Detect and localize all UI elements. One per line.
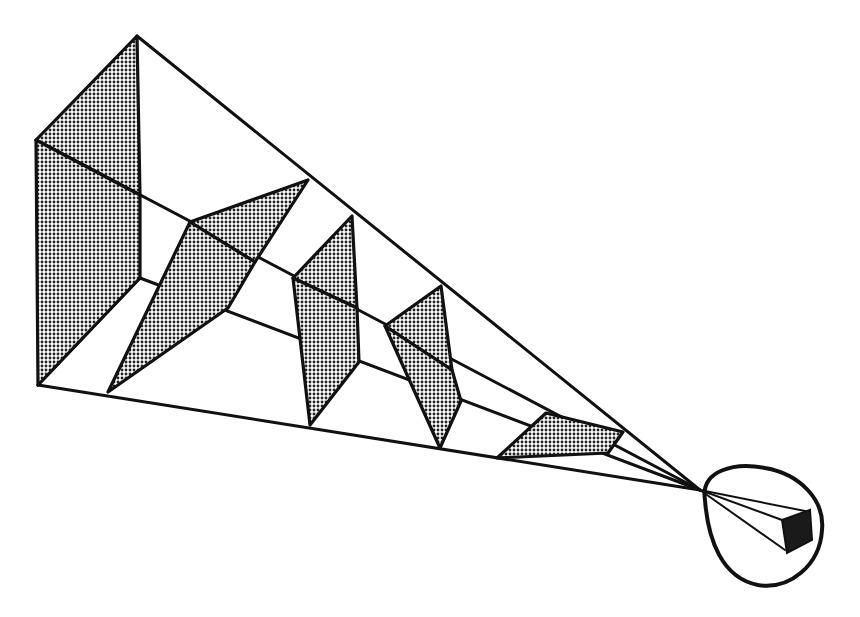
near-panel bbox=[36, 36, 140, 385]
perspective-diagram bbox=[0, 0, 860, 617]
panel-4 bbox=[385, 286, 461, 448]
projected-box bbox=[700, 490, 812, 553]
panel-3 bbox=[293, 216, 359, 425]
